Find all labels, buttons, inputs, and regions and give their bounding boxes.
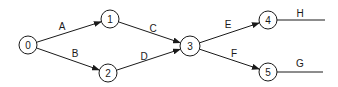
edge-f	[199, 49, 259, 69]
edge-label-h: H	[296, 8, 303, 19]
edge-label-d: D	[140, 51, 147, 62]
node-label: 1	[107, 14, 113, 25]
node-label: 3	[187, 41, 193, 52]
edge-b	[36, 48, 99, 70]
node-1: 1	[101, 10, 119, 28]
edge-label-c: C	[149, 23, 156, 34]
node-label: 5	[265, 67, 271, 78]
edge-label-f: F	[231, 48, 237, 59]
node-0: 0	[19, 36, 37, 54]
node-label: 2	[105, 68, 111, 79]
node-label: 4	[265, 15, 271, 26]
edge-label-b: B	[72, 48, 79, 59]
edge-label-g: G	[296, 58, 304, 69]
network-diagram: 012345 ABCDEFHG	[0, 0, 338, 87]
edge-d	[117, 49, 180, 70]
edge-label-a: A	[59, 21, 66, 32]
node-2: 2	[99, 64, 117, 82]
edge-label-e: E	[225, 19, 232, 30]
node-label: 0	[25, 40, 31, 51]
node-4: 4	[259, 11, 277, 29]
edge-a	[37, 22, 101, 42]
node-5: 5	[259, 63, 277, 81]
node-3: 3	[180, 36, 200, 56]
